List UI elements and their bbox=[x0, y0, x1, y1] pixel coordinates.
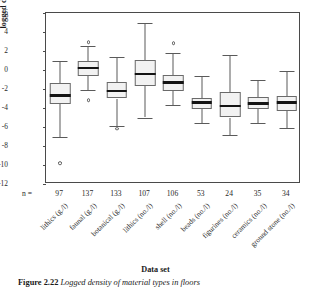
whisker-upper bbox=[60, 61, 61, 84]
box-plot-group bbox=[131, 13, 159, 184]
whisker-cap-upper bbox=[138, 23, 153, 24]
outlier-point bbox=[115, 127, 119, 131]
whisker-cap-lower bbox=[53, 137, 68, 138]
whisker-cap-lower bbox=[81, 90, 96, 91]
whisker-upper bbox=[145, 23, 146, 59]
whisker-cap-upper bbox=[223, 55, 238, 56]
median-line bbox=[248, 102, 269, 105]
whisker-lower bbox=[258, 109, 259, 123]
outlier-point bbox=[87, 99, 91, 103]
median-line bbox=[163, 81, 184, 84]
whisker-cap-lower bbox=[166, 105, 181, 106]
median-line bbox=[78, 67, 99, 70]
whisker-lower bbox=[60, 104, 61, 137]
whisker-upper bbox=[258, 80, 259, 97]
whisker-lower bbox=[88, 76, 89, 90]
n-value: 53 bbox=[197, 189, 205, 198]
whisker-upper bbox=[173, 53, 174, 75]
box-plot-group bbox=[244, 13, 272, 184]
whisker-cap-lower bbox=[251, 123, 266, 124]
median-line bbox=[220, 105, 241, 108]
y-tick-label: 2 bbox=[0, 46, 8, 55]
median-line bbox=[107, 90, 128, 93]
n-value: 97 bbox=[55, 189, 63, 198]
whisker-cap-upper bbox=[166, 53, 181, 54]
median-line bbox=[277, 101, 298, 104]
n-value: 133 bbox=[110, 189, 121, 198]
whisker-cap-lower bbox=[279, 128, 294, 129]
whisker-lower bbox=[230, 118, 231, 135]
x-axis-label: lithics (g./l) bbox=[39, 201, 70, 232]
figure-caption: Figure 2.22 Logged density of material t… bbox=[18, 277, 298, 287]
whisker-lower bbox=[116, 99, 117, 127]
whisker-lower bbox=[145, 86, 146, 117]
n-row-label: n = bbox=[22, 189, 32, 198]
outlier-point bbox=[172, 42, 176, 46]
n-value: 35 bbox=[254, 189, 262, 198]
whisker-cap-lower bbox=[223, 135, 238, 136]
whisker-upper bbox=[88, 46, 89, 61]
median-line bbox=[50, 94, 71, 97]
box-plot-group bbox=[188, 13, 216, 184]
y-tick-label: 6 bbox=[0, 8, 8, 17]
n-value: 34 bbox=[282, 189, 290, 198]
whisker-cap-upper bbox=[251, 80, 266, 81]
whisker-lower bbox=[173, 91, 174, 105]
y-tick-label: 4 bbox=[0, 27, 8, 36]
whisker-cap-upper bbox=[81, 46, 96, 47]
caption-prefix: Figure bbox=[18, 278, 42, 287]
n-value: 24 bbox=[225, 189, 233, 198]
y-tick-label: -6 bbox=[0, 122, 8, 131]
whisker-cap-lower bbox=[138, 118, 153, 119]
whisker-cap-upper bbox=[279, 71, 294, 72]
y-tick-label: -12 bbox=[0, 179, 8, 188]
y-tick-label: -4 bbox=[0, 103, 8, 112]
median-line bbox=[135, 73, 156, 76]
x-axis-title: Data set bbox=[0, 265, 311, 274]
box-plot-group bbox=[216, 13, 244, 184]
figure-container: logged density 6420-2-4-6-8-10-12 n = 97… bbox=[0, 0, 311, 287]
whisker-lower bbox=[286, 111, 287, 128]
whisker-upper bbox=[116, 57, 117, 83]
outlier-point bbox=[87, 41, 91, 45]
y-tick-label: -10 bbox=[0, 160, 8, 169]
whisker-cap-upper bbox=[194, 76, 209, 77]
plot-area bbox=[45, 12, 300, 183]
caption-text: Logged density of material types in floo… bbox=[60, 278, 200, 287]
box-plot-group bbox=[273, 13, 301, 184]
box-plot-group bbox=[103, 13, 131, 184]
y-tick-label: -2 bbox=[0, 84, 8, 93]
y-tick-mark bbox=[43, 184, 47, 185]
whisker-upper bbox=[286, 71, 287, 96]
whisker-lower bbox=[201, 109, 202, 123]
median-line bbox=[192, 101, 213, 104]
y-tick-label: -8 bbox=[0, 141, 8, 150]
outlier-point bbox=[58, 161, 62, 165]
box-plot-group bbox=[46, 13, 74, 184]
box-plot-group bbox=[159, 13, 187, 184]
whisker-cap-lower bbox=[194, 123, 209, 124]
n-value: 107 bbox=[138, 189, 149, 198]
caption-number: 2.22 bbox=[44, 278, 59, 287]
n-value: 106 bbox=[167, 189, 178, 198]
y-tick-label: 0 bbox=[0, 65, 8, 74]
whisker-upper bbox=[230, 55, 231, 92]
whisker-cap-upper bbox=[109, 57, 124, 58]
box-plot-group bbox=[74, 13, 102, 184]
whisker-cap-upper bbox=[53, 61, 68, 62]
n-value: 137 bbox=[82, 189, 93, 198]
whisker-upper bbox=[201, 76, 202, 98]
